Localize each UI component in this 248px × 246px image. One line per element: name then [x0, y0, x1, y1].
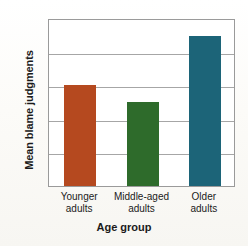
- y-axis-title: Mean blame judgments: [23, 25, 35, 195]
- x-tick-label-line: Younger: [48, 191, 110, 203]
- x-tick-label: Olderadults: [173, 191, 235, 214]
- bar: [127, 102, 159, 186]
- plot-area: [48, 19, 235, 187]
- x-tick-label-line: Older: [173, 191, 235, 203]
- x-tick-label: Middle-agedadults: [110, 191, 172, 214]
- bar: [189, 36, 221, 186]
- bar-chart-figure: Mean blame judgments 3.63.84.04.24.44.6 …: [0, 0, 248, 246]
- x-tick-label-line: adults: [173, 203, 235, 215]
- x-tick-label-line: Middle-aged: [110, 191, 172, 203]
- x-tick-label-line: adults: [110, 203, 172, 215]
- x-tick-label-line: adults: [48, 203, 110, 215]
- x-axis-title: Age group: [0, 221, 248, 233]
- bar: [64, 85, 96, 186]
- x-tick-label: Youngeradults: [48, 191, 110, 214]
